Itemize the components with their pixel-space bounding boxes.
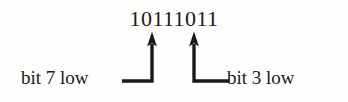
bit3-leader-group <box>189 32 229 82</box>
bit7-leader-group <box>122 32 157 82</box>
binary-bit-annotation-figure: 10111011 bit 7 low bit 3 low <box>0 0 348 102</box>
bit7-label: bit 7 low <box>21 67 89 89</box>
bit3-leader-line <box>194 44 229 81</box>
bit7-leader-line <box>122 44 152 81</box>
bit3-label: bit 3 low <box>227 67 295 89</box>
